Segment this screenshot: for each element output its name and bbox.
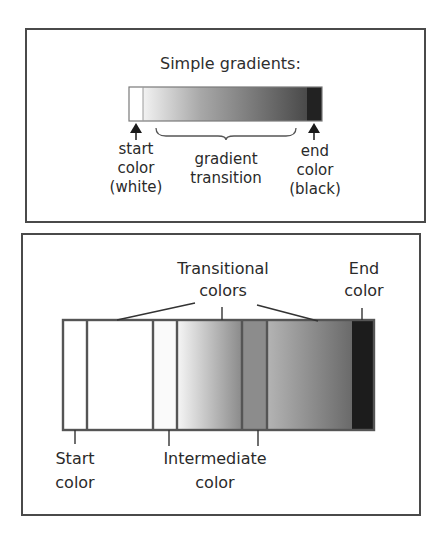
label-line: gradient (186, 150, 266, 169)
label-line: Intermediate (155, 447, 275, 471)
label-line: end (284, 142, 346, 161)
label-line: colors (168, 280, 278, 302)
transitional-colors-label: Transitional colors (168, 258, 278, 302)
label-line: (black) (284, 180, 346, 199)
label-line: transition (186, 169, 266, 188)
label-line: End (336, 258, 392, 280)
simple-gradient-bar (129, 87, 322, 121)
transition-brace (156, 128, 296, 140)
end-color-label: end color (black) (284, 142, 346, 199)
label-line: (white) (105, 178, 167, 197)
end-color-label-bottom: End color (336, 258, 392, 302)
label-line: start (105, 140, 167, 159)
intermediate-color-label: Intermediate color (155, 447, 275, 495)
label-line: color (105, 159, 167, 178)
label-line: color (336, 280, 392, 302)
gradient-transition-label: gradient transition (186, 150, 266, 188)
label-line: Transitional (168, 258, 278, 280)
label-line: color (284, 161, 346, 180)
end-arrow-icon (308, 123, 320, 140)
label-line: color (155, 471, 275, 495)
start-color-label-bottom: Start color (46, 447, 104, 495)
start-color-label: start color (white) (105, 140, 167, 197)
start-arrow-icon (130, 123, 142, 140)
label-line: color (46, 471, 104, 495)
label-line: Start (46, 447, 104, 471)
